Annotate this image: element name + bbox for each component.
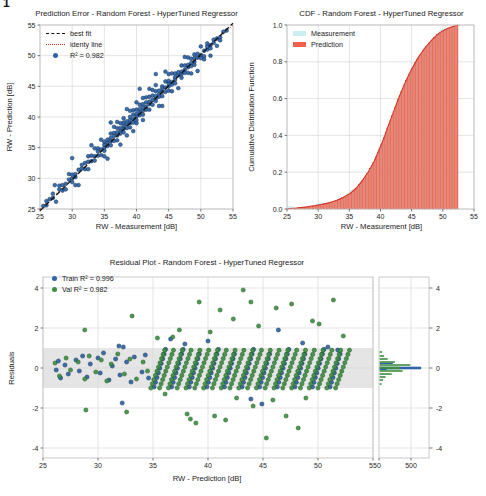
- prediction-bar: [409, 74, 410, 209]
- prediction-bar: [398, 99, 399, 209]
- data-point: [334, 361, 338, 365]
- prediction-bar: [332, 202, 333, 209]
- legend-item-train: Train R² = 0.996: [52, 274, 114, 283]
- val-hist-bin: [380, 376, 386, 378]
- data-point: [265, 357, 269, 361]
- data-point: [172, 369, 176, 373]
- data-point: [307, 386, 311, 390]
- identity-line-swatch-icon: [46, 44, 65, 45]
- data-point: [87, 354, 91, 358]
- data-point: [138, 87, 142, 91]
- data-point: [164, 70, 168, 74]
- prediction-swatch-icon: [293, 42, 306, 47]
- prediction-bar: [435, 36, 436, 209]
- val-hist-bin: [380, 379, 384, 381]
- data-point: [303, 348, 307, 352]
- prediction-bar: [334, 201, 335, 209]
- data-point: [83, 328, 87, 332]
- data-point: [154, 72, 158, 76]
- data-point: [187, 378, 191, 382]
- data-point: [220, 361, 224, 365]
- data-point: [158, 386, 162, 390]
- data-point: [214, 352, 218, 356]
- data-point: [162, 373, 166, 377]
- data-point: [273, 382, 277, 386]
- residual-legend: Train R² = 0.996 Val R² = 0.982: [52, 274, 114, 296]
- prediction-error-legend: best fit identy line R² = 0.982: [46, 29, 104, 62]
- legend-item-r2: R² = 0.982: [46, 51, 104, 60]
- data-point: [185, 412, 189, 416]
- data-point: [178, 378, 182, 382]
- data-point: [259, 373, 263, 377]
- data-point: [209, 46, 213, 50]
- data-point: [163, 392, 167, 396]
- data-point: [93, 159, 97, 163]
- tick-label: 55: [28, 22, 36, 29]
- data-point: [249, 300, 253, 304]
- tick-label: 45: [259, 462, 267, 469]
- data-point: [337, 352, 341, 356]
- data-point: [241, 373, 245, 377]
- data-point: [114, 357, 118, 361]
- data-point: [267, 352, 271, 356]
- data-point: [284, 414, 288, 418]
- data-point: [83, 377, 87, 381]
- data-point: [177, 357, 181, 361]
- data-point: [321, 373, 325, 377]
- data-point: [252, 369, 256, 373]
- cdf-chart: 253035404550550.00.20.40.60.81.0 CDF - R…: [243, 0, 486, 252]
- data-point: [286, 348, 290, 352]
- data-point: [254, 386, 258, 390]
- prediction-bar: [434, 38, 435, 209]
- data-point: [222, 378, 226, 382]
- data-point: [174, 365, 178, 369]
- tick-label: 45: [165, 213, 173, 220]
- data-point: [295, 348, 299, 352]
- data-point: [274, 306, 278, 310]
- prediction-bar: [359, 184, 360, 209]
- data-point: [312, 373, 316, 377]
- data-point: [306, 365, 310, 369]
- data-point: [291, 382, 295, 386]
- prediction-bar: [412, 68, 413, 209]
- tick-label: 35: [149, 462, 157, 469]
- data-point: [198, 348, 202, 352]
- tick-label: 0: [436, 365, 440, 372]
- data-point: [237, 386, 241, 390]
- prediction-bar: [345, 196, 346, 209]
- data-point: [125, 134, 129, 138]
- data-point: [277, 373, 281, 377]
- tick-label: 25: [28, 206, 36, 213]
- data-point: [77, 183, 81, 187]
- data-point: [158, 361, 162, 365]
- data-point: [251, 404, 255, 408]
- data-point: [177, 328, 181, 332]
- prediction-bar: [340, 199, 341, 209]
- data-point: [53, 183, 57, 187]
- tick-label: 0.8: [273, 58, 283, 65]
- tick-label: 0.0: [273, 206, 283, 213]
- data-point: [300, 382, 304, 386]
- data-point: [268, 373, 272, 377]
- prediction-bar: [354, 190, 355, 209]
- prediction-bar: [457, 25, 458, 209]
- data-point: [224, 418, 228, 422]
- data-point: [180, 373, 184, 377]
- data-point: [301, 341, 305, 345]
- data-point: [264, 361, 268, 365]
- data-point: [334, 386, 338, 390]
- data-point: [109, 121, 113, 125]
- data-point: [304, 396, 308, 400]
- data-point: [192, 365, 196, 369]
- prediction-bar: [438, 34, 439, 209]
- data-point: [246, 361, 250, 365]
- data-point: [296, 369, 300, 373]
- data-point: [70, 156, 74, 160]
- data-point: [161, 352, 165, 356]
- prediction-bar: [367, 174, 368, 209]
- data-point: [86, 167, 90, 171]
- data-point: [206, 373, 210, 377]
- data-point: [199, 45, 203, 49]
- tick-label: 50: [439, 213, 447, 220]
- data-point: [235, 396, 239, 400]
